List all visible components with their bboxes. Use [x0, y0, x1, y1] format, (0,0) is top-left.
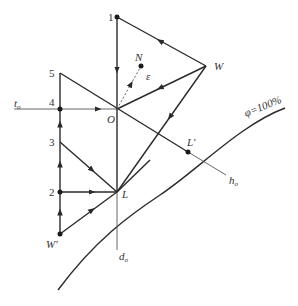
label-t0: to [14, 97, 21, 111]
label-Lprime: L′ [186, 136, 196, 148]
label-L: L [121, 188, 128, 200]
label-5: 5 [49, 67, 55, 79]
point-1 [115, 15, 120, 20]
saturation-curve [58, 108, 285, 290]
label-Wprime: W′ [46, 238, 58, 250]
label-d0: do [119, 250, 129, 264]
process-W-L [117, 66, 206, 192]
process-Wprime-L [60, 192, 117, 234]
label-phi-curve: φ=100% [242, 93, 283, 119]
point-N [139, 64, 144, 69]
point-4 [58, 107, 63, 112]
label-h0: ho [229, 174, 239, 188]
process-W-O [117, 66, 206, 109]
label-epsilon: ε [146, 70, 151, 82]
label-W: W [214, 60, 224, 72]
label-O: O [107, 113, 115, 125]
label-3: 3 [49, 136, 55, 148]
caption-strip [90, 300, 220, 306]
process-3-L [60, 142, 117, 192]
psychrometric-diagram: 1 5 4 3 2 O W N ε L L′ W′ to ho do φ=100… [0, 0, 298, 306]
h0-line [60, 73, 188, 152]
point-Lprime [186, 150, 191, 155]
h0-line-ext [188, 152, 226, 175]
label-1: 1 [108, 11, 114, 23]
label-4: 4 [49, 96, 55, 108]
point-Wprime [58, 232, 63, 237]
label-N: N [134, 51, 143, 63]
label-2: 2 [49, 186, 55, 198]
point-2 [58, 190, 63, 195]
process-W-1 [117, 17, 206, 66]
